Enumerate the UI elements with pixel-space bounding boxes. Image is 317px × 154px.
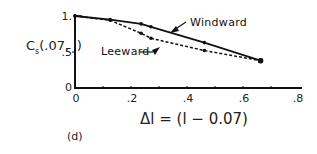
windward-annotation: Windward (170, 16, 247, 33)
windward-point (203, 41, 207, 45)
leeward-point (258, 58, 263, 63)
leeward-annotation: Leeward (101, 45, 160, 58)
x-tick-label: .2 (127, 92, 138, 105)
x-tick-label: .4 (183, 92, 194, 105)
leeward-point (203, 49, 207, 53)
leeward-point (139, 31, 143, 35)
y-axis-label: Cs(.07, l) (26, 38, 82, 56)
windward-point (149, 25, 153, 29)
x-tick-label: 0 (73, 92, 80, 105)
x-axis-label: Δl = (l − 0.07) (140, 110, 248, 128)
y-tick-label: 1. (62, 10, 73, 23)
x-tick-label: .8 (293, 92, 304, 105)
windward-label: Windward (190, 16, 247, 29)
y-tick-label: 0 (65, 81, 72, 94)
leeward-point (149, 37, 153, 41)
windward-point (139, 22, 143, 26)
leeward-label: Leeward (101, 45, 150, 58)
y-label-main: C (26, 38, 35, 53)
leeward-point (73, 14, 77, 18)
x-tick-label: .6 (239, 92, 250, 105)
chart-canvas: Windward Leeward 1. .5 0 0 .2 .4 .6 .8 (0, 0, 317, 154)
leeward-point (108, 19, 112, 23)
panel-label: (d) (67, 130, 83, 143)
x-tick-labels: 0 .2 .4 .6 .8 (73, 92, 304, 105)
y-label-rest: (.07, l) (39, 38, 82, 53)
